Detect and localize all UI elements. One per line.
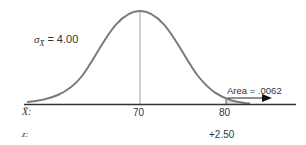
tick-label-70: 70 [133,107,144,118]
x-axis-label: X̄: [22,106,31,117]
tick-label-80: 80 [219,107,230,118]
z-score-label: +2.50 [209,129,234,140]
area-annotation: Area = .0062 [227,85,282,96]
std-error-label: σX̄ = 4.00 [34,33,78,48]
bell-curve [27,11,250,104]
normal-curve-diagram [0,0,306,145]
sigma-value: = 4.00 [44,33,78,45]
z-axis-label: z: [22,129,29,139]
